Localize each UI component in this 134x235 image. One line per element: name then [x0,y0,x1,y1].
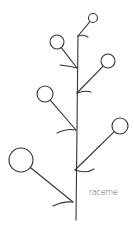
flower-circle [101,54,115,68]
flower-5 [75,118,128,172]
flower-circle [89,14,98,23]
bract [78,35,88,37]
flower-circle [9,148,33,172]
pedicel [50,100,76,130]
bract [57,129,76,133]
raceme-diagram [0,0,134,235]
flower-4 [37,86,76,133]
flower-circle [37,86,53,102]
flower-1 [78,14,98,38]
pedicel [78,21,90,36]
flower-circle [50,35,64,49]
pedicel [30,168,73,202]
pedicel [75,132,114,170]
flower-circle [112,118,128,134]
flower-2 [50,35,77,68]
bract [53,202,73,206]
bract [75,169,94,172]
pedicel [77,66,103,93]
flowers-group [9,14,128,207]
diagram-label: raceme [89,188,117,197]
flower-6 [9,148,73,206]
stem [76,36,78,220]
flower-3 [77,54,115,93]
